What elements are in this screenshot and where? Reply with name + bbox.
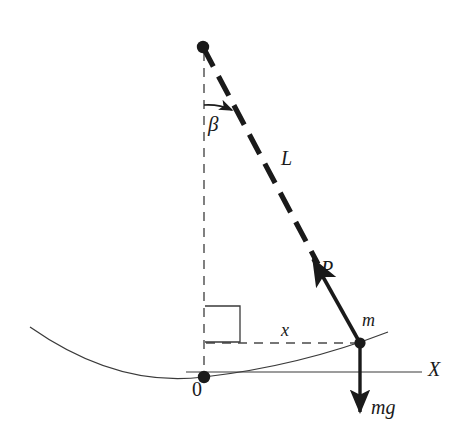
x-axis-label: X xyxy=(428,358,440,381)
horizontal-displacement-label: x xyxy=(281,320,289,341)
mass-label: m xyxy=(362,310,375,331)
pendulum-rod-dashed xyxy=(203,47,318,264)
diagram-canvas xyxy=(0,0,468,446)
physics-diagram-figure: β L P m x 0 X mg xyxy=(0,0,468,446)
weight-force-label: mg xyxy=(371,396,395,419)
parabolic-surface-curve xyxy=(30,327,388,379)
angle-beta-label: β xyxy=(208,112,218,137)
tension-force-label: P xyxy=(321,257,333,280)
right-angle-marker xyxy=(205,306,240,342)
angle-beta-arc xyxy=(204,105,232,110)
pivot-point-dot xyxy=(197,41,209,53)
mass-point-dot xyxy=(354,337,365,348)
origin-label: 0 xyxy=(192,378,202,401)
rod-length-label: L xyxy=(281,147,292,170)
